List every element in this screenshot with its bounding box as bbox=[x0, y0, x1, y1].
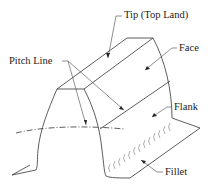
pitch-circle bbox=[16, 127, 125, 133]
pitch-line-on-tooth bbox=[100, 81, 170, 129]
tip-arrowhead-icon bbox=[106, 53, 110, 58]
flank-arrowhead-icon bbox=[152, 113, 157, 117]
fillet-label: Fillet bbox=[165, 167, 187, 178]
face-label: Face bbox=[179, 43, 199, 54]
top-land-outline bbox=[57, 38, 153, 89]
tip-leader bbox=[108, 16, 122, 58]
flank-label: Flank bbox=[174, 102, 198, 113]
gear-tooth-drawing bbox=[0, 0, 215, 191]
pitch-leader-2 bbox=[68, 61, 86, 125]
front-right-profile bbox=[84, 89, 130, 178]
face-leader bbox=[145, 48, 177, 70]
pitch-leader-1 bbox=[62, 61, 124, 110]
fillet-hatch bbox=[109, 123, 171, 172]
pitch-line-label: Pitch Line bbox=[9, 56, 52, 67]
tip-label: Tip (Top Land) bbox=[124, 10, 188, 21]
